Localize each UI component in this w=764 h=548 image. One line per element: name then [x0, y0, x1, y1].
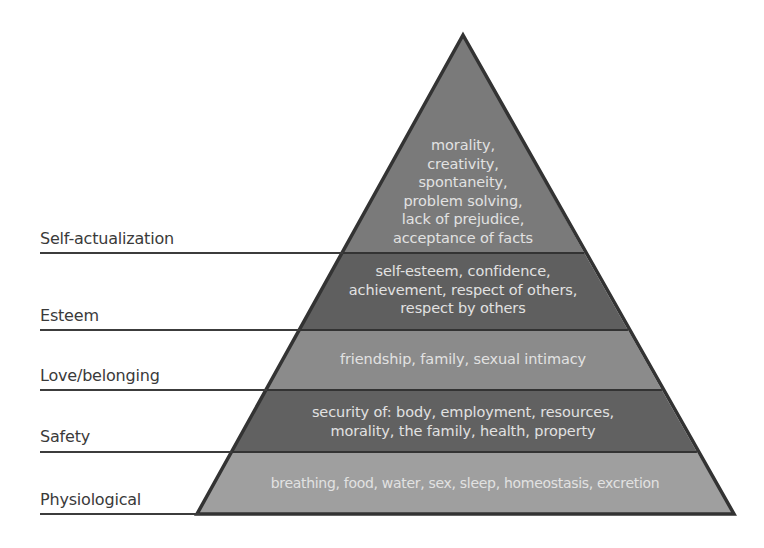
level-label-self-actualization: Self-actualization	[40, 229, 174, 248]
band-line: respect by others	[313, 299, 613, 318]
band-line: acceptance of facts	[363, 229, 563, 248]
band-text-safety: security of: body, employment, resources…	[248, 403, 678, 440]
band-text-self-actualization: morality, creativity, spontaneity, probl…	[363, 136, 563, 247]
level-label-safety: Safety	[40, 427, 90, 446]
band-line: problem solving,	[363, 192, 563, 211]
band-line: self-esteem, confidence,	[313, 262, 613, 281]
maslow-pyramid-diagram: Self-actualization Esteem Love/belonging…	[0, 0, 764, 548]
guide-line-love-belonging	[40, 389, 267, 391]
band-line: breathing, food, water, sex, sleep, home…	[212, 474, 718, 493]
band-line: lack of prejudice,	[363, 210, 563, 229]
band-text-physiological: breathing, food, water, sex, sleep, home…	[212, 474, 718, 493]
level-label-physiological: Physiological	[40, 490, 141, 509]
band-line: morality,	[363, 136, 563, 155]
guide-line-self-actualization	[40, 252, 343, 254]
band-line: spontaneity,	[363, 173, 563, 192]
band-line: security of: body, employment, resources…	[248, 403, 678, 422]
band-text-love-belonging: friendship, family, sexual intimacy	[283, 350, 643, 369]
level-label-love-belonging: Love/belonging	[40, 366, 160, 385]
guide-line-esteem	[40, 329, 300, 331]
band-line: creativity,	[363, 155, 563, 174]
guide-line-physiological	[40, 513, 200, 515]
level-label-esteem: Esteem	[40, 306, 99, 325]
band-text-esteem: self-esteem, confidence, achievement, re…	[313, 262, 613, 318]
band-line: achievement, respect of others,	[313, 281, 613, 300]
guide-line-safety	[40, 451, 232, 453]
band-line: morality, the family, health, property	[248, 422, 678, 441]
band-line: friendship, family, sexual intimacy	[283, 350, 643, 369]
